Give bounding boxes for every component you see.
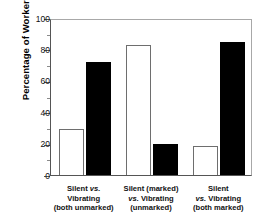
bar-filled-bar-group-1: [86, 62, 111, 175]
emphasis-vs: vs.: [90, 184, 101, 193]
x-label-line-2: vs. Vibrating: [179, 194, 258, 204]
bar-open-bar-group-3: [193, 146, 218, 175]
bar-filled-bar-group-2: [153, 144, 178, 175]
bar-open-bar-group-2: [126, 45, 151, 175]
x-axis-labels: Silent vs.Vibrating(both unmarked)Silent…: [50, 184, 252, 223]
x-axis-group-label-3: Silentvs. Vibrating(both marked): [179, 184, 258, 213]
emphasis-vs: vs.: [196, 194, 207, 203]
y-tick-label: 0: [24, 172, 50, 181]
y-tick-label: 40: [24, 109, 50, 118]
y-tick-label: 80: [24, 46, 50, 55]
x-label-line-1: Silent: [179, 184, 258, 194]
x-label-line-3: (both marked): [179, 203, 258, 213]
bar-filled-bar-group-3: [220, 42, 245, 175]
emphasis-vs: vs.: [128, 194, 139, 203]
y-tick-label: 100: [24, 15, 50, 24]
plot-area: [50, 19, 252, 176]
bar-chart: Percentage of Workers 020406080100 Silen…: [0, 0, 264, 223]
y-axis-ticks: 020406080100: [0, 0, 50, 223]
y-tick-label: 20: [24, 140, 50, 149]
y-tick-label: 60: [24, 77, 50, 86]
bar-open-bar-group-1: [59, 129, 84, 175]
